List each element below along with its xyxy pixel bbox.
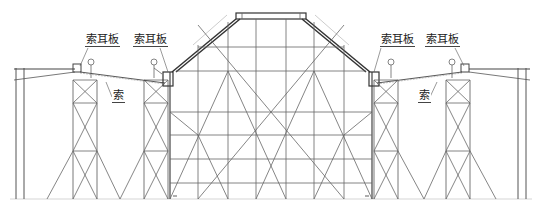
cable-right	[377, 72, 462, 83]
tower-left-1	[47, 59, 120, 199]
label-lug-plate-3: 索耳板	[380, 34, 415, 47]
central-frame	[170, 13, 372, 199]
label-lug-plate-1: 索耳板	[85, 34, 120, 47]
label-lug-plate-2: 索耳板	[133, 34, 168, 47]
label-cable-left: 索	[112, 90, 125, 103]
label-cable-right: 索	[418, 90, 431, 103]
tower-right-2	[424, 59, 496, 199]
right-outer-columns	[461, 64, 530, 199]
label-lug-plate-4: 索耳板	[425, 34, 460, 47]
left-outer-columns	[14, 64, 81, 199]
structural-diagram	[0, 0, 542, 211]
cable-left	[80, 72, 165, 83]
